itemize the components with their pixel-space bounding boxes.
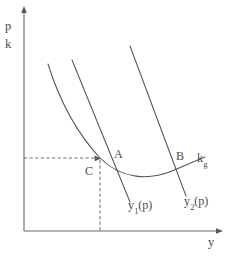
- curve-label-y1-subscript: 1: [134, 206, 138, 216]
- curve-label-y1: y1(p): [128, 199, 152, 214]
- economics-diagram: p k y A B C kg y1(p) y2(p): [0, 0, 236, 257]
- plot-canvas: [0, 0, 236, 257]
- point-label-c: C: [85, 165, 93, 177]
- curve-label-y2: y2(p): [184, 195, 208, 210]
- point-label-b: B: [176, 150, 184, 162]
- y-axis-arrowhead: [21, 6, 27, 13]
- curve-label-y2-subscript: 2: [190, 202, 194, 212]
- y-axis-label-k: k: [5, 38, 11, 51]
- curve-label-y2-argument: (p): [194, 194, 208, 208]
- curve-label-kg-subscript: g: [203, 159, 207, 169]
- point-label-a: A: [114, 148, 123, 160]
- curve-label-kg: kg: [197, 152, 207, 167]
- x-axis-label-y: y: [208, 236, 214, 249]
- y1-line: [72, 60, 130, 202]
- curve-label-y1-argument: (p): [138, 198, 152, 212]
- y2-line: [130, 46, 186, 196]
- y-axis-label-p: p: [5, 20, 11, 33]
- x-axis-arrowhead: [216, 228, 223, 234]
